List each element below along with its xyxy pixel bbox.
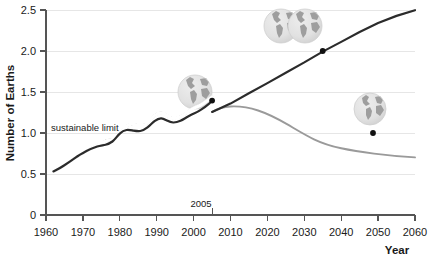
globe-one-earth-2005-icon bbox=[178, 75, 212, 109]
x-axis-ticks bbox=[46, 215, 415, 221]
y-axis-title: Number of Earths bbox=[4, 65, 16, 162]
y-tick-labels: 2.5 2.0 1.5 1.0 0.5 0 bbox=[21, 4, 36, 221]
x-axis-title: Year bbox=[385, 244, 410, 256]
x-tick-label-1990: 1990 bbox=[144, 226, 168, 238]
y-tick-label-0.5: 0.5 bbox=[21, 168, 36, 180]
x-tick-labels: 1960 1970 1980 1990 2000 2010 2020 2030 … bbox=[34, 226, 427, 238]
ecological-footprint-chart: 2.5 2.0 1.5 1.0 0.5 0 1960 1970 1980 199… bbox=[0, 0, 440, 261]
x-tick-label-2050: 2050 bbox=[366, 226, 390, 238]
x-tick-label-1960: 1960 bbox=[34, 226, 58, 238]
x-tick-label-2020: 2020 bbox=[255, 226, 279, 238]
marker-two-earths-2035 bbox=[320, 48, 326, 54]
series-historical-footprint-line bbox=[53, 97, 212, 172]
x-tick-label-2030: 2030 bbox=[292, 226, 316, 238]
series-historical-footprint bbox=[53, 97, 212, 172]
x-tick-label-2010: 2010 bbox=[218, 226, 242, 238]
marker-branch-point-2005 bbox=[209, 98, 215, 104]
globe-two-earths-2030-icon bbox=[264, 9, 322, 43]
data-series-group bbox=[53, 10, 415, 171]
chart-svg: 2.5 2.0 1.5 1.0 0.5 0 1960 1970 1980 199… bbox=[0, 0, 440, 261]
gridlines bbox=[46, 10, 415, 174]
x-tick-label-1970: 1970 bbox=[71, 226, 95, 238]
y-tick-label-2.0: 2.0 bbox=[21, 45, 36, 57]
year-2005-annotation: 2005 bbox=[190, 198, 211, 209]
sustainable-limit-label: sustainable limit bbox=[51, 122, 119, 133]
x-tick-label-2000: 2000 bbox=[181, 226, 205, 238]
marker-one-earth-2048 bbox=[370, 130, 376, 136]
globe-icons-group bbox=[178, 9, 386, 125]
historical-line-overlay bbox=[53, 97, 212, 172]
y-tick-label-2.5: 2.5 bbox=[21, 4, 36, 16]
y-tick-label-1.0: 1.0 bbox=[21, 127, 36, 139]
y-axis-ticks bbox=[40, 10, 46, 215]
y-tick-label-0: 0 bbox=[30, 209, 36, 221]
globe-one-earth-2050-icon bbox=[354, 93, 386, 125]
y-tick-label-1.5: 1.5 bbox=[21, 86, 36, 98]
x-tick-label-2060: 2060 bbox=[403, 226, 427, 238]
x-tick-label-1980: 1980 bbox=[108, 226, 132, 238]
x-tick-label-2040: 2040 bbox=[329, 226, 353, 238]
